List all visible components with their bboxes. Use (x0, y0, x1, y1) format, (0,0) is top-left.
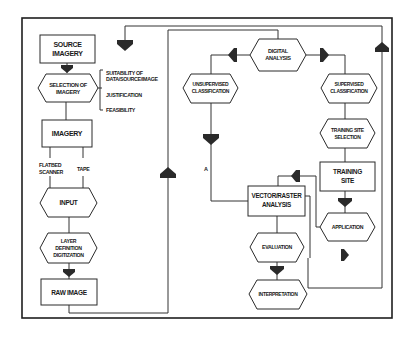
svg-text:LAYER: LAYER (61, 238, 77, 244)
connector-label-a: A (204, 166, 208, 172)
svg-text:VECTOR/RASTER: VECTOR/RASTER (252, 192, 303, 199)
diamond-arrow-right-icon (341, 249, 349, 261)
svg-text:ANALYSIS: ANALYSIS (262, 201, 291, 208)
svg-text:DATA/SOURCE/IMAGE: DATA/SOURCE/IMAGE (106, 76, 159, 82)
svg-text:EVALUATION: EVALUATION (262, 244, 293, 250)
svg-text:DEFINITION: DEFINITION (55, 245, 82, 251)
arrow-down-icon (338, 198, 352, 207)
svg-text:INTERPRETATION: INTERPRETATION (259, 291, 299, 297)
arrow-down-icon (270, 266, 284, 275)
node-unsupervised-classification: UNSUPERVISED CLASSIFICATION (183, 74, 238, 103)
svg-text:SCANNER: SCANNER (39, 169, 64, 175)
svg-text:INPUT: INPUT (59, 199, 77, 206)
node-source-imagery: SOURCE IMAGERY (40, 35, 95, 63)
node-interpretation: INTERPRETATION (249, 280, 307, 309)
selection-criteria: SUITABILITY OF DATA/SOURCE/IMAGE JUSTIFI… (106, 70, 159, 113)
diamond-arrow-left-icon (228, 48, 237, 62)
diamond-arrow-left-icon (291, 170, 300, 182)
svg-text:SELECTION: SELECTION (335, 134, 362, 140)
node-vector-raster-analysis: VECTOR/RASTER ANALYSIS (248, 186, 305, 216)
svg-text:SITE: SITE (341, 177, 355, 184)
connector-vector-right (305, 196, 310, 258)
svg-text:TAPE: TAPE (77, 166, 90, 172)
arrow-down-icon (61, 65, 73, 73)
svg-text:DIGITIZATION: DIGITIZATION (53, 252, 84, 258)
node-raw-image: RAW IMAGE (41, 279, 97, 305)
arrow-down-icon (117, 40, 133, 51)
arrow-up-icon (160, 167, 176, 178)
svg-text:SELECTION OF: SELECTION OF (49, 82, 88, 88)
svg-text:IMAGERY: IMAGERY (52, 50, 83, 57)
arrow-down-icon (63, 269, 75, 277)
svg-text:TRAINING SITE: TRAINING SITE (331, 127, 365, 133)
node-evaluation: EVALUATION (250, 233, 304, 262)
svg-text:TRAINING: TRAINING (333, 168, 362, 175)
node-digital-analysis: DIGITAL ANALYSIS (250, 39, 306, 71)
arrow-up-icon (375, 42, 389, 52)
connector-unsupervised-vector (211, 103, 248, 201)
svg-text:APPLICATION: APPLICATION (332, 224, 364, 230)
svg-text:UNSUPERVISED: UNSUPERVISED (193, 81, 229, 87)
svg-text:CLASSIFICATION: CLASSIFICATION (192, 88, 230, 94)
svg-text:CLASSIFICATION: CLASSIFICATION (330, 88, 368, 94)
svg-text:RAW IMAGE: RAW IMAGE (51, 289, 88, 296)
node-supervised-classification: SUPERVISED CLASSIFICATION (321, 74, 377, 103)
node-application: APPLICATION (320, 213, 375, 241)
node-imagery: IMAGERY (42, 120, 92, 147)
node-layer-definition-digitization: LAYER DEFINITION DIGITIZATION (40, 233, 97, 263)
svg-text:FEASIBILITY: FEASIBILITY (106, 107, 136, 113)
node-input: INPUT (40, 188, 97, 217)
svg-text:FLATBED: FLATBED (39, 162, 62, 168)
input-source-labels: FLATBED SCANNER TAPE (39, 162, 90, 175)
svg-text:DIGITAL: DIGITAL (268, 48, 289, 54)
svg-text:JUSTIFICATION: JUSTIFICATION (106, 92, 142, 98)
svg-text:SUPERVISED: SUPERVISED (334, 81, 364, 87)
svg-text:SOURCE: SOURCE (53, 41, 82, 48)
gis-workflow-diagram: A SOURCE IMAGERY SELECTION OF IMAGERY SU… (0, 0, 410, 337)
svg-text:IMAGERY: IMAGERY (56, 89, 80, 95)
node-selection-of-imagery: SELECTION OF IMAGERY (38, 74, 98, 102)
diamond-arrow-right-icon (320, 48, 329, 62)
node-training-site: TRAINING SITE (320, 162, 375, 191)
node-training-site-selection: TRAINING SITE SELECTION (320, 119, 375, 148)
svg-text:IMAGERY: IMAGERY (52, 130, 83, 137)
arrow-down-icon (203, 134, 219, 145)
svg-text:ANALYSIS: ANALYSIS (265, 55, 291, 61)
